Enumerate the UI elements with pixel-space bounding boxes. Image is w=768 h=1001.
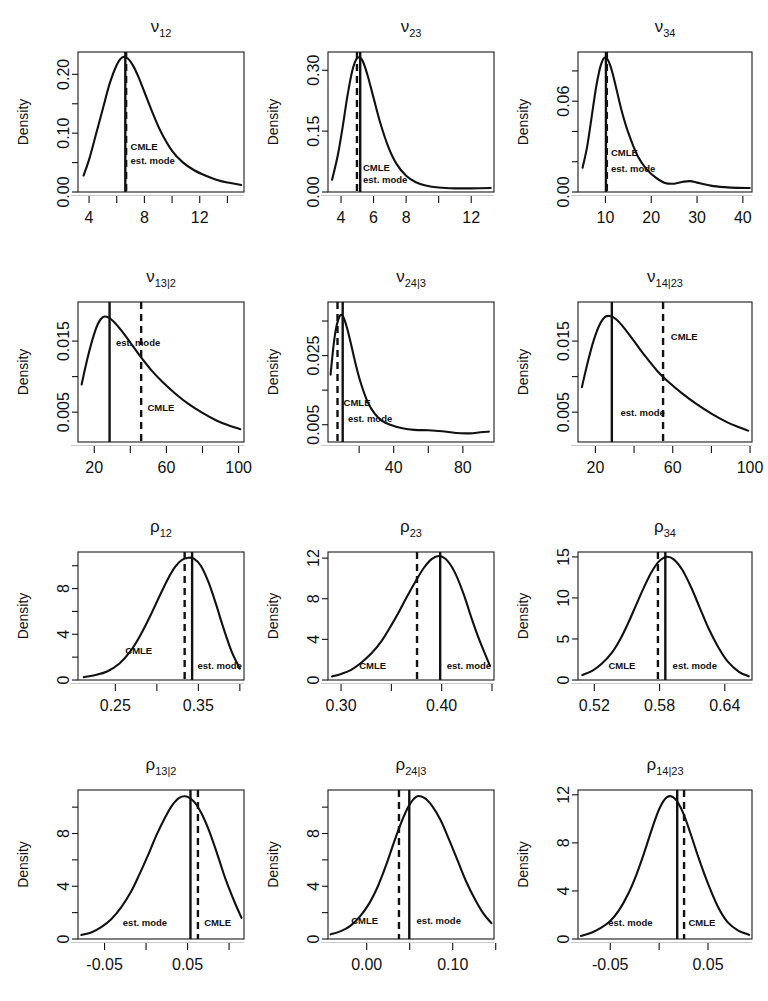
y-tick-label: 10: [555, 589, 572, 607]
y-axis-title: Density: [515, 593, 531, 640]
y-tick-label: 4: [55, 630, 72, 639]
y-tick-label: 0.025: [305, 335, 322, 375]
x-tick-label: 0.52: [579, 697, 610, 714]
panel-title: ν13|2: [146, 267, 176, 289]
y-axis-title: Density: [265, 349, 281, 396]
x-tick-label: 40: [734, 209, 752, 226]
mode-label: est. mode: [417, 915, 461, 926]
y-tick-label: 0.015: [55, 321, 72, 361]
cmle-label: CMLE: [344, 397, 371, 408]
x-tick-label: -0.05: [86, 956, 123, 973]
x-tick-label: 0.05: [172, 956, 203, 973]
panel-title: ν24|3: [396, 267, 426, 289]
y-tick-label: 0.10: [55, 118, 72, 149]
x-tick-label: 20: [587, 459, 605, 476]
mode-label: est. mode: [116, 337, 160, 348]
density-curve: [331, 796, 492, 934]
cmle-label: CMLE: [688, 917, 715, 928]
y-tick-label: 15: [555, 548, 572, 566]
panel-title: ν23: [401, 17, 422, 39]
mode-label: est. mode: [131, 155, 175, 166]
y-tick-label: 8: [305, 594, 322, 603]
x-tick-label: 6: [369, 209, 378, 226]
y-axis-title: Density: [515, 349, 531, 396]
x-tick-label: 8: [402, 209, 411, 226]
y-tick-label: 0.00: [55, 176, 72, 207]
y-tick-label: 4: [305, 635, 322, 644]
y-tick-label: 0.15: [305, 115, 322, 146]
x-tick-label: -0.05: [592, 956, 629, 973]
x-tick-label: 12: [462, 209, 480, 226]
panel-title: ρ12: [150, 517, 172, 539]
y-tick-label: 0.30: [305, 55, 322, 86]
x-tick-label: 0.58: [644, 697, 675, 714]
x-tick-label: 0.40: [426, 697, 457, 714]
cmle-label: CMLE: [363, 162, 390, 173]
x-tick-label: 0.00: [351, 956, 382, 973]
density-panel-nu34: ν34Density0.000.0610203040est. modeCMLE: [508, 4, 766, 254]
y-axis-title: Density: [265, 99, 281, 146]
mode-label: est. mode: [348, 413, 392, 424]
mode-label: est. mode: [123, 917, 167, 928]
mode-label: est. mode: [447, 660, 491, 671]
x-tick-label: 20: [85, 459, 103, 476]
cmle-label: CMLE: [351, 915, 378, 926]
y-tick-label: 0.00: [555, 176, 572, 207]
x-tick-label: 80: [454, 459, 472, 476]
y-tick-label: 0.005: [305, 405, 322, 445]
mode-label: est. mode: [673, 660, 717, 671]
y-axis-title: Density: [15, 841, 31, 888]
x-tick-label: 100: [737, 459, 764, 476]
y-tick-label: 4: [305, 882, 322, 891]
cmle-label: CMLE: [359, 660, 386, 671]
cmle-label: CMLE: [204, 917, 231, 928]
cmle-label: CMLE: [125, 645, 152, 656]
cmle-label: CMLE: [608, 660, 635, 671]
plot-box: [578, 52, 752, 192]
density-panel-rho13g2: ρ13|2Density048-0.050.05est. modeCMLE: [8, 742, 258, 1001]
mode-label: est. mode: [621, 407, 665, 418]
y-tick-label: 8: [55, 829, 72, 838]
cmle-label: CMLE: [147, 402, 174, 413]
panel-title: ν12: [151, 17, 172, 39]
density-panel-figure: ν12Density0.000.100.204812est. modeCMLEν…: [0, 0, 768, 1001]
density-panel-rho24g3: ρ24|3Density0480.000.10est. modeCMLE: [258, 742, 508, 1001]
y-tick-label: 4: [555, 886, 572, 895]
x-tick-label: 100: [225, 459, 252, 476]
cmle-label: CMLE: [131, 141, 158, 152]
x-tick-label: 12: [191, 209, 209, 226]
cmle-label: CMLE: [611, 147, 638, 158]
y-tick-label: 0.00: [305, 176, 322, 207]
mode-label: est. mode: [611, 163, 655, 174]
y-tick-label: 0.005: [55, 392, 72, 432]
y-axis-title: Density: [15, 593, 31, 640]
plot-box: [578, 790, 752, 939]
panel-title: ρ14|23: [647, 755, 684, 777]
y-tick-label: 0: [55, 934, 72, 943]
x-tick-label: 0.05: [692, 956, 723, 973]
x-tick-label: 8: [140, 209, 149, 226]
x-tick-label: 10: [597, 209, 615, 226]
density-curve: [81, 796, 241, 935]
x-tick-label: 0.10: [437, 956, 468, 973]
density-panel-nu23: ν23Density0.000.150.3046812est. modeCMLE: [258, 4, 508, 254]
y-tick-label: 0.06: [555, 86, 572, 117]
y-tick-label: 8: [305, 829, 322, 838]
y-tick-label: 8: [555, 838, 572, 847]
y-axis-title: Density: [515, 841, 531, 888]
x-tick-label: 20: [642, 209, 660, 226]
y-axis-title: Density: [265, 841, 281, 888]
y-tick-label: 0.015: [555, 321, 572, 361]
x-tick-label: 60: [158, 459, 176, 476]
density-panel-nu12: ν12Density0.000.100.204812est. modeCMLE: [8, 4, 258, 254]
density-panel-nu14g23: ν14|23Density0.0050.0152060100est. modeC…: [508, 254, 766, 504]
y-tick-label: 0.20: [55, 59, 72, 90]
mode-label: est. mode: [363, 174, 407, 185]
density-panel-nu24g3: ν24|3Density0.0050.0254080est. modeCMLE: [258, 254, 508, 504]
x-tick-label: 0.35: [183, 697, 214, 714]
y-axis-title: Density: [15, 99, 31, 146]
x-tick-label: 30: [688, 209, 706, 226]
density-panel-rho12: ρ12Density0480.250.35est. modeCMLE: [8, 504, 258, 742]
x-tick-label: 0.30: [326, 697, 357, 714]
density-curve: [332, 556, 490, 676]
